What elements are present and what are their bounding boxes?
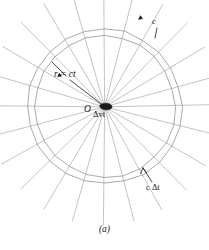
wavefront-diagram xyxy=(0,0,209,250)
arrowhead-upper-right-icon xyxy=(138,16,142,20)
radial-ray xyxy=(107,23,187,104)
radial-ray xyxy=(72,0,104,104)
radial-ray xyxy=(105,110,134,221)
radial-ray xyxy=(104,0,105,104)
figure-container: r = ct O Δvt c c Δt (a) xyxy=(0,0,209,250)
radial-ray xyxy=(107,108,205,165)
label-radius: r = ct xyxy=(54,70,76,80)
arrowhead-markers-group xyxy=(57,16,142,77)
radial-ray xyxy=(3,47,102,106)
radial-ray xyxy=(21,109,102,189)
label-origin: O xyxy=(84,105,91,115)
leader-arrow-barb-b xyxy=(141,168,144,174)
radial-ray xyxy=(105,0,134,104)
leader-speed-c xyxy=(155,28,157,38)
radial-ray xyxy=(103,110,104,225)
radial-ray xyxy=(107,108,209,135)
leader-arrow-barb-a xyxy=(143,168,147,173)
label-speed-c: c xyxy=(152,17,156,26)
figure-caption: (a) xyxy=(0,224,209,234)
label-source-displacement: Δvt xyxy=(93,110,105,119)
radial-ray xyxy=(106,109,162,209)
label-shell-thickness: c Δt xyxy=(146,183,160,192)
radial-ray xyxy=(0,74,102,106)
radial-ray xyxy=(107,76,209,106)
radial-ray xyxy=(108,104,209,106)
radial-ray xyxy=(72,110,103,221)
